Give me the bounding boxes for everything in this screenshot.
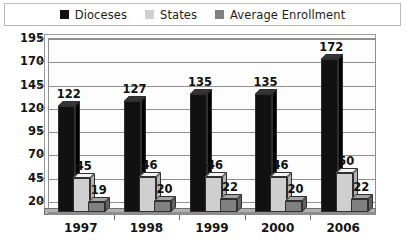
bar-value-label: 127	[122, 82, 146, 96]
y-axis: 20457095120145170195	[0, 0, 44, 242]
y-axis-tick-mark	[38, 201, 44, 202]
y-axis-tick-mark	[38, 154, 44, 155]
bar-value-label: 172	[319, 40, 343, 54]
bar-front-face	[88, 202, 105, 212]
bar-front-face	[351, 199, 368, 212]
bar-average-enrollment-2000	[285, 201, 302, 212]
x-axis-tick-label: 2000	[261, 221, 294, 235]
x-axis-tick-label: 1998	[130, 221, 163, 235]
bar-value-label: 135	[254, 75, 278, 89]
bar-value-label: 19	[91, 183, 107, 197]
chart-figure: Dioceses States Average Enrollment 20457…	[0, 0, 407, 242]
bar-average-enrollment-1998	[154, 201, 171, 212]
bar-value-label: 50	[338, 154, 354, 168]
x-axis-tick-mark	[310, 215, 311, 220]
legend-item-states: States	[145, 8, 197, 22]
x-axis-tick-mark	[114, 215, 115, 220]
y-axis-tick-mark	[38, 38, 44, 39]
x-axis-tick-label: 1999	[195, 221, 228, 235]
legend-item-dioceses: Dioceses	[60, 8, 127, 22]
bar-average-enrollment-2006	[351, 199, 368, 212]
bar-value-label: 22	[222, 180, 238, 194]
x-axis-tick-mark	[179, 215, 180, 220]
bar-front-face	[154, 201, 171, 212]
y-axis-tick-mark	[38, 131, 44, 132]
bar-front-face	[220, 199, 237, 212]
bar-value-label: 46	[273, 158, 289, 172]
bar-average-enrollment-1997	[88, 202, 105, 212]
legend-label-average-enrollment: Average Enrollment	[230, 8, 345, 22]
bar-value-label: 22	[353, 180, 369, 194]
x-axis-tick-mark	[245, 215, 246, 220]
x-axis-tick-label: 1997	[64, 221, 97, 235]
bar-value-label: 135	[188, 75, 212, 89]
legend-item-average-enrollment: Average Enrollment	[215, 8, 345, 22]
bar-value-label: 20	[156, 182, 172, 196]
y-axis-tick-mark	[38, 85, 44, 86]
bar-front-face	[285, 201, 302, 212]
y-axis-tick-mark	[38, 178, 44, 179]
bar-value-label: 46	[141, 158, 157, 172]
y-axis-tick-mark	[38, 108, 44, 109]
x-axis-tick-label: 2006	[326, 221, 359, 235]
bar-average-enrollment-1999	[220, 199, 237, 212]
legend-label-dioceses: Dioceses	[75, 8, 127, 22]
bar-value-label: 45	[76, 159, 92, 173]
chart-floor-front	[48, 212, 376, 215]
legend-swatch-dioceses	[60, 10, 69, 19]
legend-swatch-states	[145, 10, 154, 19]
bar-value-label: 20	[288, 182, 304, 196]
legend-swatch-average-enrollment	[215, 10, 224, 19]
legend-label-states: States	[160, 8, 197, 22]
chart-legend: Dioceses States Average Enrollment	[4, 3, 401, 26]
bar-value-label: 122	[57, 87, 81, 101]
y-axis-tick-mark	[38, 61, 44, 62]
bar-value-label: 46	[207, 158, 223, 172]
